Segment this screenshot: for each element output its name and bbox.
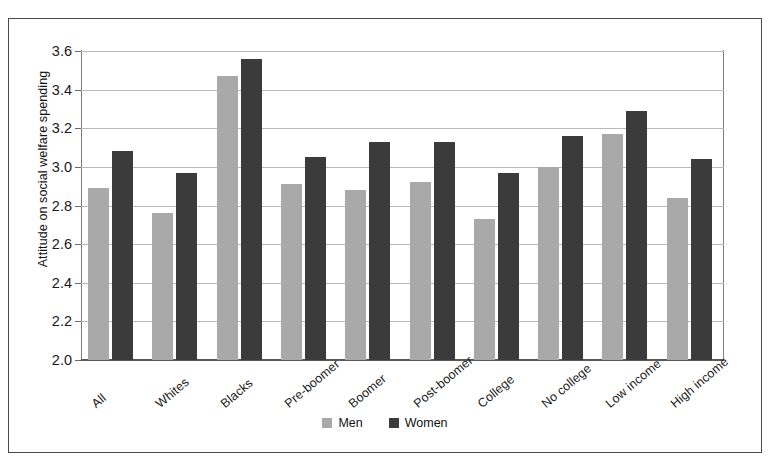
bar-group [531,51,595,360]
bar [562,136,583,360]
y-axis-tick-label: 3.2 [52,120,72,136]
chart-figure: Attitude on social welfare spending 3.63… [8,18,762,453]
bar-group [467,51,531,360]
x-axis-tick-label: Boomer [346,371,389,410]
legend-label: Women [405,416,448,430]
x-axis-tick-label: Pre-boomer [282,357,342,411]
y-axis-tick-label: 3.4 [52,82,72,98]
bar-group [660,51,724,360]
chart-legend: MenWomen [9,416,761,430]
bar [176,173,197,360]
bar [152,213,173,360]
bar [281,184,302,360]
bar [241,59,262,360]
x-axis-tick-label: Whites [153,375,192,411]
legend-item: Women [389,416,448,430]
plot-area: 3.63.43.23.02.82.62.42.22.0 AllWhitesBla… [81,51,724,360]
y-axis-tick-label: 2.0 [52,352,72,368]
x-axis-tick-label: Post-boomer [411,353,476,410]
bar [474,219,495,360]
bar-group [145,51,209,360]
legend-item: Men [322,416,362,430]
bar [626,111,647,360]
x-axis-tick-label: High income [668,355,731,411]
x-axis-tick-label: All [89,391,109,411]
bar [538,167,559,360]
y-axis-tick-label: 2.6 [52,236,72,252]
y-axis-tick [75,360,81,361]
bar [667,198,688,360]
bar-group [274,51,338,360]
bar [345,190,366,360]
x-axis-tick-label: College [475,372,517,410]
legend-swatch [389,418,399,428]
bar [217,76,238,360]
y-axis-tick-label: 2.8 [52,198,72,214]
x-axis-tick-label: Low income [603,356,664,410]
legend-label: Men [338,416,362,430]
bar-group [595,51,659,360]
legend-swatch [322,418,332,428]
x-axis-tick-label: Blacks [218,376,256,411]
bar-group [210,51,274,360]
y-axis-tick-label: 2.2 [52,313,72,329]
bar [498,173,519,360]
bar-group [403,51,467,360]
bar [88,188,109,360]
bar [434,142,455,360]
bar-group [338,51,402,360]
bar [369,142,390,360]
y-axis-tick-label: 3.6 [52,43,72,59]
y-axis-tick-label: 2.4 [52,275,72,291]
bar [691,159,712,360]
y-axis-tick-label: 3.0 [52,159,72,175]
x-axis-tick-label: No college [539,361,594,410]
bar [305,157,326,360]
bar-group [81,51,145,360]
bar [602,134,623,360]
bar [410,182,431,360]
bar [112,151,133,360]
